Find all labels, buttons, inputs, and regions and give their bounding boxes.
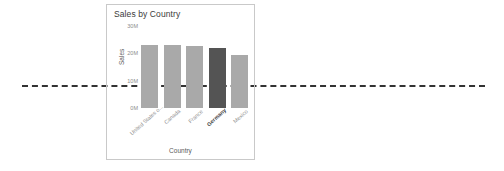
bar-cell[interactable]: Mexico [231, 26, 248, 108]
y-tick-20m: 20M [127, 50, 138, 56]
x-label-canada: Canada [163, 108, 181, 125]
bar-cell[interactable]: Canada [164, 26, 181, 108]
bar-cell[interactable]: Germany [209, 26, 226, 108]
bar-germany[interactable] [209, 48, 226, 108]
y-axis-title: Sales [118, 49, 125, 65]
bar-canada[interactable] [164, 45, 181, 108]
plot-area: 30M 20M 10M 0M United States o... Canada… [141, 26, 248, 108]
bar-series: United States o... Canada France Germany [141, 26, 248, 108]
chart-panel[interactable]: Sales by Country Sales 30M 20M 10M 0M Un… [106, 4, 255, 160]
x-label-mexico: Mexico [232, 109, 249, 125]
chart-title: Sales by Country [114, 9, 180, 19]
bar-france[interactable] [186, 46, 203, 108]
x-label-germany: Germany [206, 107, 228, 127]
x-label-france: France [187, 109, 204, 125]
y-tick-30m: 30M [127, 23, 138, 29]
y-tick-10m: 10M [127, 78, 138, 84]
bar-cell[interactable]: United States o... [141, 26, 158, 108]
bar-mexico[interactable] [231, 55, 248, 108]
bar-united-states[interactable] [141, 45, 158, 108]
screenshot-canvas: Sales by Country Sales 30M 20M 10M 0M Un… [0, 0, 504, 171]
bar-cell[interactable]: France [186, 26, 203, 108]
x-axis-title: Country [107, 147, 254, 154]
y-tick-0m: 0M [130, 105, 138, 111]
